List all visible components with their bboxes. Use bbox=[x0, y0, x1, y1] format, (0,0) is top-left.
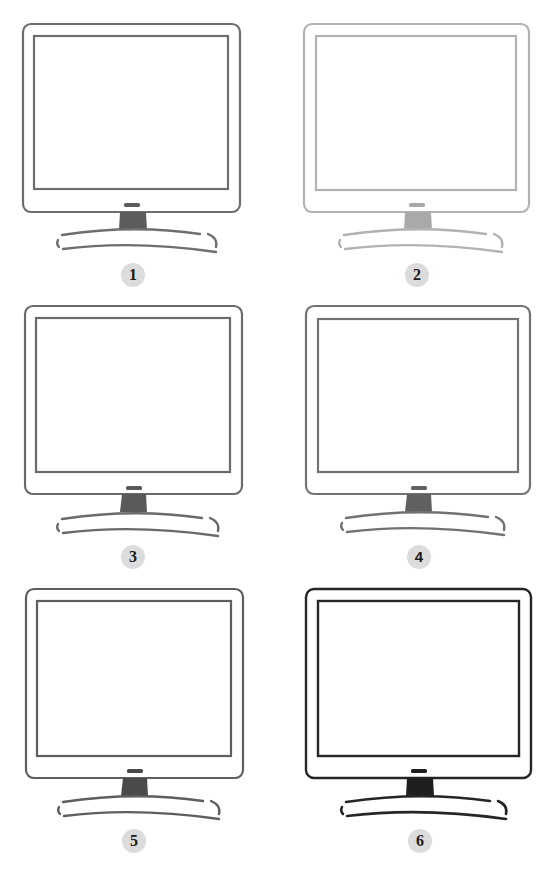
monitor-icon bbox=[278, 0, 556, 290]
monitor-icon bbox=[0, 0, 278, 290]
monitor-option-3: 3 bbox=[0, 290, 278, 580]
badge-number-5: 5 bbox=[122, 829, 146, 853]
badge-number-6: 6 bbox=[408, 829, 432, 853]
monitor-icon bbox=[278, 290, 556, 580]
badge-number-3: 3 bbox=[121, 545, 145, 569]
badge-number-4: 4 bbox=[407, 545, 431, 569]
monitor-option-1: 1 bbox=[0, 0, 278, 290]
monitor-option-5: 5 bbox=[0, 575, 278, 865]
badge-number-1: 1 bbox=[121, 263, 145, 287]
monitor-icon bbox=[0, 575, 278, 872]
monitor-option-4: 4 bbox=[278, 290, 556, 580]
monitor-icon bbox=[0, 290, 278, 580]
monitor-icon bbox=[278, 575, 556, 872]
monitor-option-2: 2 bbox=[278, 0, 556, 290]
badge-number-2: 2 bbox=[405, 263, 429, 287]
monitor-option-6: 6 bbox=[278, 575, 556, 865]
